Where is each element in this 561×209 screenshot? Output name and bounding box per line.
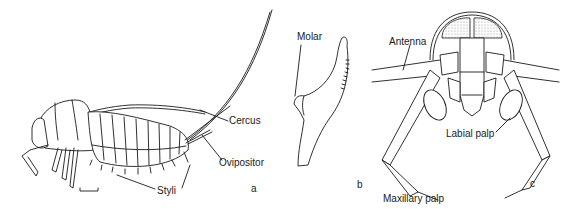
label-molar: Molar <box>297 32 322 42</box>
panel-letter-b: b <box>357 180 363 190</box>
label-maxillary-palp: Maxillary palp <box>383 194 444 204</box>
panel-letter-c: c <box>530 179 535 189</box>
scale-bar <box>80 188 98 191</box>
molar-leader <box>295 45 301 96</box>
label-antenna: Antenna <box>389 37 426 47</box>
mandible-drawing <box>280 0 370 209</box>
panel-c: Antenna Labial palp Maxillary palp c <box>370 0 561 209</box>
label-labial-palp: Labial palp <box>446 129 494 139</box>
labial-palp-leader <box>496 118 510 132</box>
panel-a: Cercus Ovipositor Styli a <box>0 0 280 209</box>
panel-b: Molar b <box>280 0 370 209</box>
label-ovipositor: Ovipositor <box>219 158 264 168</box>
antenna-leader <box>403 45 410 70</box>
panel-letter-a: a <box>251 184 257 194</box>
label-styli: Styli <box>157 186 176 196</box>
insect-lateral-drawing <box>0 0 280 209</box>
label-cercus: Cercus <box>229 116 261 126</box>
styli-leader-2 <box>182 165 190 188</box>
styli-leader-1 <box>117 175 155 189</box>
